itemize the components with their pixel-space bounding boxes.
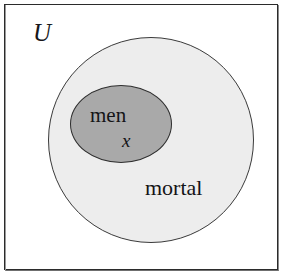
euler-diagram-figure: U men x mortal bbox=[0, 0, 288, 278]
element-label-x: x bbox=[122, 131, 130, 150]
set-label-men: men bbox=[90, 105, 126, 126]
set-label-mortal: mortal bbox=[145, 177, 202, 199]
universe-label: U bbox=[33, 20, 51, 45]
